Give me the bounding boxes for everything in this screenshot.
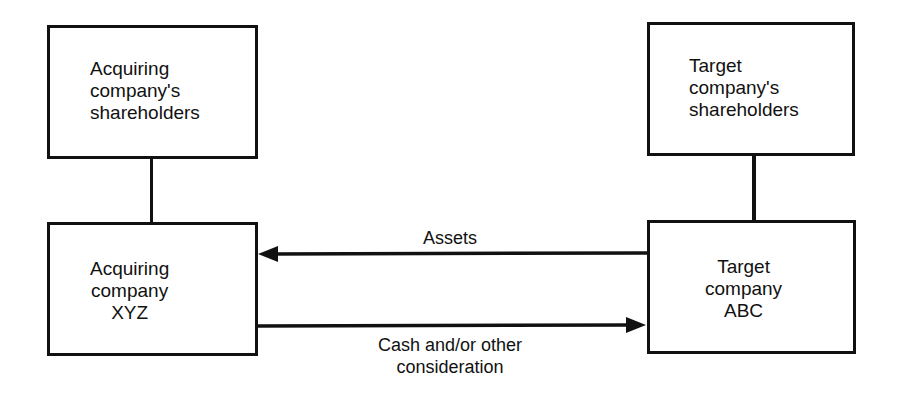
arrowhead-left-icon xyxy=(258,246,278,262)
text-line: Cash and/or other xyxy=(340,334,560,356)
text-line: consideration xyxy=(340,356,560,378)
cash-arrow xyxy=(258,317,646,333)
arrowhead-right-icon xyxy=(626,317,646,333)
cash-consideration-label: Cash and/or other consideration xyxy=(340,334,560,378)
assets-label: Assets xyxy=(400,227,500,249)
